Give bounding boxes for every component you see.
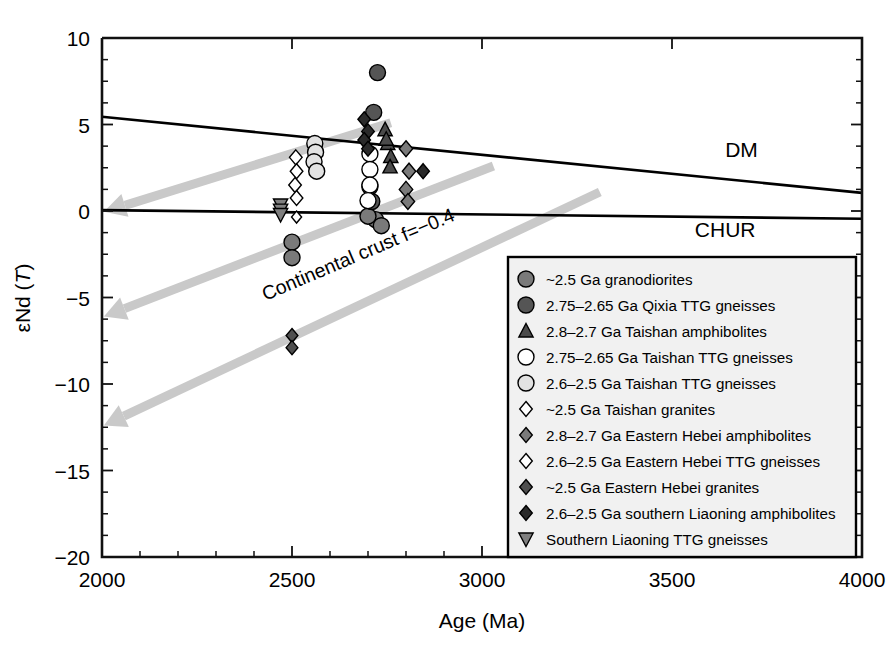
legend-label: 2.6–2.5 Ga Taishan TTG gneisses xyxy=(546,375,776,392)
legend-label: 2.8–2.7 Ga Eastern Hebei amphibolites xyxy=(546,427,812,444)
legend-marker-icon xyxy=(518,297,534,313)
data-point xyxy=(360,208,376,224)
legend-item-9[interactable]: 2.6–2.5 Ga southern Liaoning amphibolite… xyxy=(520,505,836,522)
reference-line-label-chur: CHUR xyxy=(695,218,756,241)
legend-label: ~2.5 Ga Taishan granites xyxy=(546,401,715,418)
legend-label: 2.75–2.65 Ga Qixia TTG gneisses xyxy=(546,297,776,314)
legend-label: ~2.5 Ga granodiorites xyxy=(546,271,693,288)
legend-label: 2.6–2.5 Ga southern Liaoning amphibolite… xyxy=(546,505,836,522)
legend-label: 2.8–2.7 Ga Taishan amphibolites xyxy=(546,323,767,340)
legend-marker-icon xyxy=(518,349,534,365)
legend-item-5[interactable]: ~2.5 Ga Taishan granites xyxy=(520,401,716,418)
legend-item-8[interactable]: ~2.5 Ga Eastern Hebei granites xyxy=(520,479,760,496)
figure-root: DMCHUR Continental crust f=−0.4 20002500… xyxy=(0,0,896,650)
legend-item-7[interactable]: 2.6–2.5 Ga Eastern Hebei TTG gneisses xyxy=(520,453,821,470)
nd-isotope-scatter-chart: DMCHUR Continental crust f=−0.4 20002500… xyxy=(0,0,896,650)
legend-label: Southern Liaoning TTG gneisses xyxy=(546,531,768,548)
legend-marker-icon xyxy=(518,271,534,287)
x-tick-label: 2500 xyxy=(269,568,316,591)
legend-item-2[interactable]: 2.8–2.7 Ga Taishan amphibolites xyxy=(519,323,767,340)
y-tick-label: −5 xyxy=(66,287,90,310)
legend-item-4[interactable]: 2.6–2.5 Ga Taishan TTG gneisses xyxy=(518,375,776,392)
legend-item-1[interactable]: 2.75–2.65 Ga Qixia TTG gneisses xyxy=(518,297,776,314)
data-point xyxy=(360,193,376,209)
y-tick-label: −15 xyxy=(54,460,90,483)
y-tick-label: 0 xyxy=(78,200,90,223)
x-tick-label: 3500 xyxy=(649,568,696,591)
data-point xyxy=(309,163,325,179)
legend-marker-icon xyxy=(518,375,534,391)
y-tick-label: −20 xyxy=(54,546,90,569)
y-axis-title: εNd (T) xyxy=(11,264,34,333)
legend-label: ~2.5 Ga Eastern Hebei granites xyxy=(546,479,760,496)
data-point xyxy=(362,161,378,177)
x-tick-label: 2000 xyxy=(79,568,126,591)
data-point xyxy=(362,177,378,193)
reference-line-label-dm: DM xyxy=(725,138,758,161)
data-point xyxy=(284,234,300,250)
y-tick-label: 5 xyxy=(78,114,90,137)
x-tick-label: 3000 xyxy=(459,568,506,591)
x-axis-title: Age (Ma) xyxy=(439,609,525,632)
legend-item-3[interactable]: 2.75–2.65 Ga Taishan TTG gneisses xyxy=(518,349,793,366)
data-point xyxy=(284,250,300,266)
legend-label: 2.6–2.5 Ga Eastern Hebei TTG gneisses xyxy=(546,453,820,470)
series-4 xyxy=(306,136,325,180)
x-tick-label: 4000 xyxy=(839,568,886,591)
legend-label: 2.75–2.65 Ga Taishan TTG gneisses xyxy=(546,349,793,366)
data-point xyxy=(370,65,386,81)
y-tick-label: 10 xyxy=(67,27,90,50)
legend-item-10[interactable]: Southern Liaoning TTG gneisses xyxy=(519,531,768,548)
legend-item-6[interactable]: 2.8–2.7 Ga Eastern Hebei amphibolites xyxy=(520,427,812,444)
y-tick-label: −10 xyxy=(54,373,90,396)
chart-legend[interactable]: ~2.5 Ga granodiorites2.75–2.65 Ga Qixia … xyxy=(508,257,856,557)
